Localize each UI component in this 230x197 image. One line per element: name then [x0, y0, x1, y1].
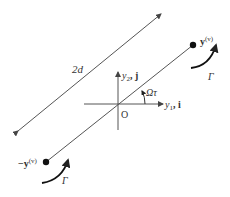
vortex-pair-diagram: 2d y2, j y1, i O Ωτ y(v) Γ −y(v) Γ — [0, 0, 230, 197]
distance-arrow — [18, 14, 161, 131]
angle-label: Ωτ — [146, 87, 157, 98]
circulation-label-top: Γ — [207, 71, 214, 82]
vortex-negative-label: −y(v) — [18, 157, 38, 169]
vortex-point-positive — [190, 42, 196, 48]
circulation-arrow-top — [191, 45, 216, 68]
vortex-point-negative — [43, 159, 49, 165]
y2-axis-label: y2, j — [121, 70, 138, 83]
circulation-label-bottom: Γ — [61, 175, 68, 186]
angle-arc — [142, 91, 145, 104]
y1-axis-label: y1, i — [164, 99, 181, 112]
distance-label: 2d — [72, 63, 84, 75]
vortex-positive-label: y(v) — [200, 35, 214, 47]
origin-label: O — [121, 109, 128, 120]
